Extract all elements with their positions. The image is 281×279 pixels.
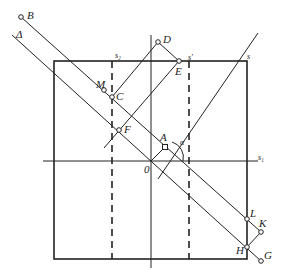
label-m: M	[96, 79, 105, 90]
label-c: C	[116, 91, 123, 102]
segment-h-k	[247, 232, 261, 247]
point-g	[259, 259, 264, 264]
label-s1: s₁	[258, 154, 264, 162]
label-delta: Δ	[16, 29, 22, 40]
label-h: H	[236, 245, 244, 256]
label-e: E	[175, 66, 182, 77]
point-e	[177, 59, 182, 64]
label-g: G	[264, 250, 272, 261]
diagram-drawing	[0, 0, 281, 279]
line-b-k	[21, 17, 261, 232]
point-a	[163, 145, 168, 150]
point-h	[245, 245, 250, 250]
geometry-diagram: B Δ D s₂ s' s E M C F A α s₁ 0 L K H G	[0, 0, 281, 279]
line-f-e	[104, 61, 179, 148]
point-f	[117, 128, 122, 133]
label-b: B	[27, 10, 34, 21]
label-a: A	[160, 132, 167, 143]
label-alpha: α	[180, 139, 184, 147]
line-delta	[12, 35, 261, 261]
point-c	[110, 95, 115, 100]
label-d: D	[163, 34, 171, 45]
label-s-prime: s'	[188, 54, 193, 62]
point-d	[156, 40, 161, 45]
label-o: 0	[144, 164, 150, 175]
point-k	[259, 230, 264, 235]
label-k: K	[259, 218, 266, 229]
label-l: L	[250, 208, 256, 219]
label-s: s	[247, 53, 250, 61]
label-s2: s₂	[115, 52, 121, 60]
label-f: F	[124, 124, 131, 135]
point-l	[245, 217, 250, 222]
point-b	[19, 15, 24, 20]
